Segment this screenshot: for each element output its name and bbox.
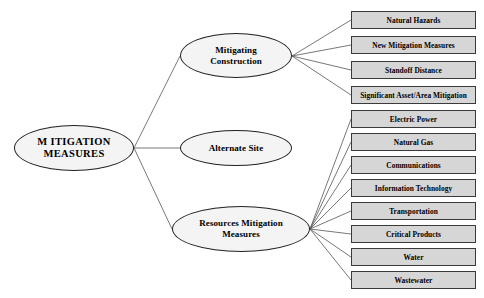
node-natural-hazards[interactable]: Natural Hazards — [351, 11, 476, 29]
node-resources-mitigation-measures-line1: Resources Mitigation — [199, 218, 283, 228]
node-electric-power-label: Electric Power — [388, 115, 439, 124]
node-water[interactable]: Water — [351, 248, 476, 266]
node-new-mitigation-measures-label: New Mitigation Measures — [370, 41, 456, 50]
node-mitigation-measures-label: M ITIGATION MEASURES — [31, 136, 116, 161]
node-mitigation-measures-line1: M ITIGATION — [37, 136, 110, 147]
node-information-technology[interactable]: Information Technology — [351, 179, 476, 197]
node-mitigation-measures[interactable]: M ITIGATION MEASURES — [14, 125, 134, 171]
node-resources-mitigation-measures-line2: Measures — [222, 229, 260, 239]
node-alternate-site[interactable]: Alternate Site — [180, 130, 292, 166]
node-communications[interactable]: Communications — [351, 156, 476, 174]
node-critical-products-label: Critical Products — [384, 230, 443, 239]
node-resources-mitigation-measures-label: Resources Mitigation Measures — [193, 218, 289, 239]
mitigation-measures-diagram: M ITIGATION MEASURES Mitigating Construc… — [0, 0, 484, 298]
node-resources-mitigation-measures[interactable]: Resources Mitigation Measures — [172, 206, 310, 252]
node-wastewater-label: Wastewater — [393, 276, 435, 285]
node-standoff-distance-label: Standoff Distance — [383, 66, 444, 75]
node-communications-label: Communications — [384, 161, 443, 170]
node-mitigating-construction[interactable]: Mitigating Construction — [180, 33, 292, 78]
node-mitigating-construction-line1: Mitigating — [215, 45, 257, 55]
node-natural-hazards-label: Natural Hazards — [385, 16, 443, 25]
node-electric-power[interactable]: Electric Power — [351, 110, 476, 128]
node-transportation[interactable]: Transportation — [351, 202, 476, 220]
node-layer: M ITIGATION MEASURES Mitigating Construc… — [0, 0, 484, 298]
node-mitigating-construction-line2: Construction — [210, 56, 262, 66]
node-significant-asset-area-mitigation[interactable]: Significant Asset/Area Mitigation — [351, 86, 476, 104]
node-transportation-label: Transportation — [387, 207, 440, 216]
node-information-technology-label: Information Technology — [373, 184, 454, 193]
node-significant-asset-area-mitigation-label: Significant Asset/Area Mitigation — [358, 91, 469, 100]
node-critical-products[interactable]: Critical Products — [351, 225, 476, 243]
node-new-mitigation-measures[interactable]: New Mitigation Measures — [351, 36, 476, 54]
node-natural-gas[interactable]: Natural Gas — [351, 133, 476, 151]
node-alternate-site-label: Alternate Site — [203, 143, 270, 154]
node-standoff-distance[interactable]: Standoff Distance — [351, 61, 476, 79]
node-water-label: Water — [402, 253, 426, 262]
node-mitigation-measures-line2: MEASURES — [43, 148, 104, 159]
node-mitigating-construction-label: Mitigating Construction — [204, 45, 268, 66]
node-wastewater[interactable]: Wastewater — [351, 271, 476, 289]
node-natural-gas-label: Natural Gas — [392, 138, 435, 147]
